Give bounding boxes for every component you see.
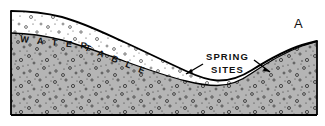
sites-label: SITES [211,64,244,75]
groundwater-cross-section-figure: W A T E R T A B L E SPRING SITES A [0,0,325,126]
spring-label: SPRING [206,51,249,62]
panel-label: A [294,16,303,31]
cross-section-svg: W A T E R T A B L E SPRING SITES A [0,0,325,126]
